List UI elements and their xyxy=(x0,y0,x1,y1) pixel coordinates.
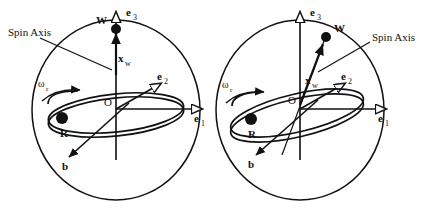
svg-text:e: e xyxy=(341,70,346,82)
point-w-marker xyxy=(111,24,121,34)
svg-text:ω: ω xyxy=(38,78,45,89)
spin-axis-leader xyxy=(318,42,370,72)
point-w-label: W xyxy=(96,14,107,26)
svg-text:r: r xyxy=(46,85,49,93)
svg-text:2: 2 xyxy=(348,77,352,86)
svg-text:3: 3 xyxy=(317,13,321,22)
point-w-marker xyxy=(321,32,331,42)
svg-text:x: x xyxy=(305,74,311,86)
svg-text:e: e xyxy=(157,70,162,82)
point-r-marker xyxy=(56,112,68,124)
svg-text:w: w xyxy=(125,59,131,68)
point-w-label: W xyxy=(334,22,345,34)
point-r-label: R xyxy=(60,127,69,139)
panel-right: Spin Axis W R O e 3 e 1 e 2 x w b ω r xyxy=(216,6,415,200)
panel-left: Spin Axis W R O e 3 e 1 e 2 x w b ω r xyxy=(8,6,205,200)
svg-text:ω: ω xyxy=(222,79,229,90)
svg-text:1: 1 xyxy=(385,119,389,128)
vector-b-label: b xyxy=(62,160,68,172)
vector-b-label: b xyxy=(248,158,254,170)
axis-e2-label: e 2 xyxy=(341,70,352,86)
vector-xw-label: x w xyxy=(118,52,131,68)
point-r-label: R xyxy=(248,128,257,140)
svg-text:e: e xyxy=(126,6,131,18)
svg-text:w: w xyxy=(312,81,318,90)
spin-axis-label: Spin Axis xyxy=(372,31,415,43)
origin-label: O xyxy=(104,96,112,108)
svg-text:3: 3 xyxy=(133,13,137,22)
svg-text:e: e xyxy=(378,112,383,124)
diagram-svg: Spin Axis W R O e 3 e 1 e 2 x w b ω r xyxy=(0,0,432,213)
omega-label: ω r xyxy=(222,79,233,94)
svg-text:2: 2 xyxy=(164,77,168,86)
spin-axis-label: Spin Axis xyxy=(8,26,51,38)
axis-e3-label: e 3 xyxy=(126,6,137,22)
point-r-marker xyxy=(245,113,257,125)
svg-text:e: e xyxy=(194,112,199,124)
svg-text:1: 1 xyxy=(201,119,205,128)
origin-label: O xyxy=(288,94,296,106)
svg-text:r: r xyxy=(230,86,233,94)
svg-text:x: x xyxy=(118,52,124,64)
vector-b-line xyxy=(69,103,129,157)
axis-e2-label: e 2 xyxy=(157,70,168,86)
svg-text:e: e xyxy=(310,6,315,18)
axis-e3-label: e 3 xyxy=(310,6,321,22)
figure-canvas: Spin Axis W R O e 3 e 1 e 2 x w b ω r xyxy=(0,0,432,213)
omega-label: ω r xyxy=(38,78,49,93)
